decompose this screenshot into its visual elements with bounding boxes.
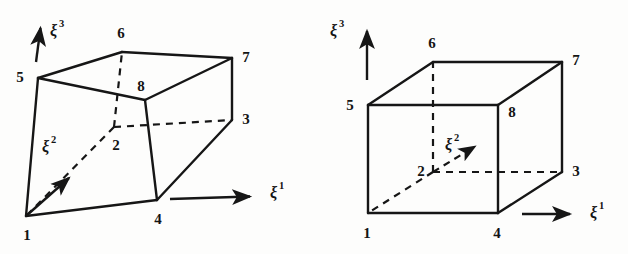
right-xi2-axis-line [433,147,474,172]
right-xi1-axis-label: ξ [590,204,598,221]
right-node-label-4: 4 [493,225,501,241]
right-xi3-axis-label: ξ [330,22,338,39]
right-edge-5-6 [368,62,433,105]
right-node-label-6: 6 [428,35,436,51]
right-edge-8-7 [498,62,562,105]
right-panel-reference-cube: 1 2 3 4 5 6 7 8 ξ 1 ξ 2 ξ 3 [0,0,628,254]
right-xi2-axis-superscript: 2 [454,132,459,143]
right-xi1-axis-superscript: 1 [599,200,604,211]
right-node-label-2: 2 [417,163,425,179]
right-node-label-3: 3 [572,163,580,179]
right-node-label-8: 8 [508,104,516,120]
right-node-label-5: 5 [346,97,354,113]
right-node-labels: 1 2 3 4 5 6 7 8 [346,35,580,241]
right-visible-edges [368,62,562,213]
right-node-label-1: 1 [363,225,371,241]
right-xi2-axis-label: ξ [445,136,453,153]
hexahedral-element-figure: 1 2 3 4 5 6 7 8 ξ 1 ξ 2 ξ 3 [0,0,628,254]
right-edge-4-3 [498,172,562,213]
right-node-label-7: 7 [572,52,580,68]
right-xi3-axis-superscript: 3 [339,18,344,29]
